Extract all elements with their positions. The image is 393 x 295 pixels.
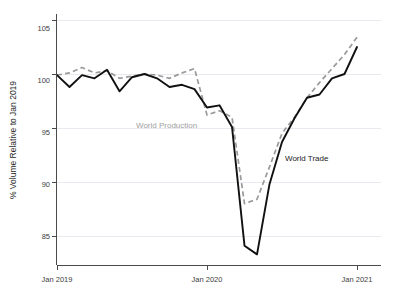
y-tick-label-85: 85 [42, 232, 50, 241]
x-tick-label-jan-2021: Jan 2021 [342, 275, 373, 284]
chart-container: 85 90 95 100 105 Jan 2019 Jan 2020 Jan 2… [0, 0, 393, 295]
annotation-world-production: World Production [136, 121, 197, 130]
y-axis-title: % Volume Relative to Jan 2019 [8, 81, 18, 199]
annotation-world-trade: World Trade [285, 154, 329, 163]
x-tick-label-jan-2019: Jan 2019 [42, 275, 73, 284]
y-tick-label-90: 90 [42, 180, 50, 189]
y-tick-label-95: 95 [42, 128, 50, 137]
y-tick-label-100: 100 [37, 76, 50, 85]
chart-background [0, 0, 393, 295]
line-chart: 85 90 95 100 105 Jan 2019 Jan 2020 Jan 2… [0, 0, 393, 295]
y-tick-label-105: 105 [37, 24, 50, 33]
x-tick-label-jan-2020: Jan 2020 [192, 275, 223, 284]
